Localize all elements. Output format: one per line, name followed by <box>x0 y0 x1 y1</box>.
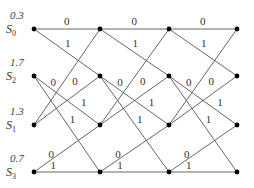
trellis-diagram: 010101010101010101010101 0.3S01.7S21.3S1… <box>0 0 254 188</box>
edge-label: 1 <box>186 159 192 171</box>
transition-edge <box>34 125 100 172</box>
state-node <box>235 27 240 32</box>
state-node <box>32 27 37 32</box>
state-node <box>167 123 172 128</box>
state-node <box>167 74 172 79</box>
state-node <box>167 170 172 175</box>
state-label: S3 <box>6 165 16 181</box>
edge-label: 1 <box>81 96 87 108</box>
edge-label: 1 <box>149 96 155 108</box>
edge-label: 1 <box>65 37 71 49</box>
edge-label: 1 <box>51 159 57 171</box>
edge-label: 1 <box>137 113 143 125</box>
transition-edge <box>100 76 169 172</box>
path-metric: 0.3 <box>10 9 24 21</box>
transition-edge <box>34 29 100 76</box>
transition-edge <box>100 125 169 172</box>
edges <box>34 29 237 172</box>
path-metric: 1.7 <box>10 56 24 68</box>
state-node <box>167 27 172 32</box>
edge-label: 0 <box>186 76 192 88</box>
transition-edge <box>169 76 237 172</box>
edge-label: 0 <box>208 75 214 87</box>
state-node <box>98 123 103 128</box>
transition-edge <box>34 76 100 172</box>
transition-edge <box>100 29 169 76</box>
edge-label: 0 <box>64 15 70 27</box>
transition-edge <box>169 125 237 172</box>
edge-label: 1 <box>217 96 223 108</box>
edge-label: 0 <box>117 76 123 88</box>
state-node <box>235 123 240 128</box>
edge-label: 1 <box>133 37 139 49</box>
state-node <box>235 74 240 79</box>
edge-label: 0 <box>51 76 57 88</box>
path-metric: 1.3 <box>10 105 24 117</box>
state-label: S0 <box>6 22 16 38</box>
state-label: S1 <box>6 118 16 134</box>
state-label: S2 <box>6 69 16 85</box>
state-node <box>98 74 103 79</box>
edge-label: 0 <box>132 15 138 27</box>
state-node <box>32 123 37 128</box>
edge-label: 1 <box>70 113 76 125</box>
edge-label: 1 <box>201 37 207 49</box>
edge-label: 0 <box>72 75 78 87</box>
state-node <box>98 27 103 32</box>
transition-edge <box>169 29 237 76</box>
state-node <box>32 74 37 79</box>
state-node <box>32 170 37 175</box>
edge-label: 1 <box>206 113 212 125</box>
edge-label: 0 <box>200 15 206 27</box>
edge-label: 1 <box>117 159 123 171</box>
state-node <box>235 170 240 175</box>
path-metric: 0.7 <box>10 152 24 164</box>
edge-label: 0 <box>140 75 146 87</box>
state-labels: 0.3S01.7S21.3S10.7S3 <box>6 9 24 181</box>
state-node <box>98 170 103 175</box>
